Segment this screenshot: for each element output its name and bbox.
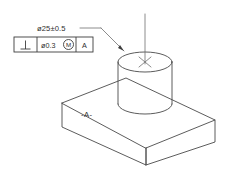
base-plate [62,78,215,165]
cylinder-bottom-arc [118,104,172,114]
technical-drawing-canvas: ø25±0.5 ø0.3 M A -A- [0,0,233,182]
feature-control-frame: ø0.3 M A [14,37,93,52]
base-plate-right-face [146,120,215,165]
perpendicularity-icon [21,41,31,50]
base-plate-left-face [62,103,146,165]
mmc-modifier-letter: M [66,41,71,48]
tolerance-value-text: ø0.3 [41,41,55,50]
drawing-svg: ø25±0.5 ø0.3 M A -A- [0,0,233,182]
datum-feature-label: -A- [81,110,92,119]
mmc-modifier-icon: M [64,40,74,50]
diameter-callout-text: ø25±0.5 [37,24,66,33]
datum-reference-text: A [82,41,87,50]
